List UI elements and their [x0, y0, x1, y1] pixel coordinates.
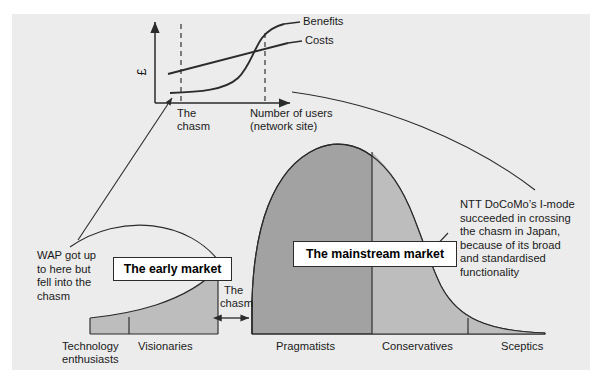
segment-label-technology-enthusiasts-line1: Technology [62, 340, 119, 354]
legend-costs: Costs [305, 34, 334, 48]
segment-label-pragmatists: Pragmatists [276, 340, 335, 354]
callout-mainstream-market: The mainstream market [293, 241, 457, 267]
segment-label-visionaries: Visionaries [138, 340, 193, 354]
costs-line [168, 43, 288, 74]
segment-label-sceptics: Sceptics [501, 340, 543, 354]
legend-benefits: Benefits [303, 15, 343, 29]
annotation-wap: WAP got up to here but fell into the cha… [37, 249, 96, 303]
inset-chart-axes [155, 22, 290, 103]
inset-chasm-label-line2: chasm [177, 120, 210, 134]
figure-root: £ The chasm Number of users (network sit… [0, 0, 610, 389]
segment-label-technology-enthusiasts-line2: enthusiasts [62, 353, 119, 367]
callout-early-market: The early market [113, 257, 232, 281]
chasm-gap-label-line2: chasm [220, 297, 253, 311]
inset-x-axis-label-line1: Number of users [250, 107, 333, 121]
diagram-graphics [0, 0, 610, 389]
inset-y-axis-label: £ [139, 62, 146, 80]
chasm-gap-label-line1: The [224, 284, 243, 298]
annotation-ntt: NTT DoCoMo’s I-mode succeeded in crossin… [460, 198, 575, 280]
segment-label-conservatives: Conservatives [382, 340, 453, 354]
inset-x-axis-label-line2: (network site) [250, 120, 317, 134]
inset-chasm-label-line1: The [177, 107, 196, 121]
inset-chart-series [168, 22, 302, 93]
